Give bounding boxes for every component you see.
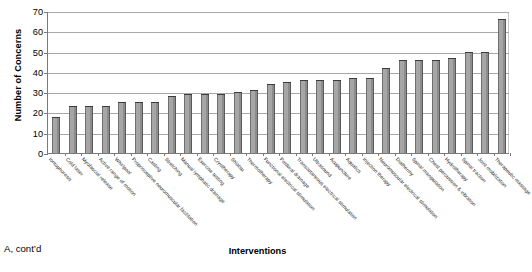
y-tick-mark [44, 154, 48, 155]
x-tick-label: Transcutaneous electrical stimulation [295, 156, 358, 221]
y-tick-label: 10 [33, 129, 43, 139]
bar [201, 94, 209, 153]
bar [283, 82, 291, 153]
y-tick-label: 40 [33, 68, 43, 78]
y-tick-label: 20 [33, 108, 43, 118]
bar [465, 52, 473, 153]
bar [481, 52, 489, 153]
bar [250, 90, 258, 153]
bar [432, 60, 440, 153]
bar [333, 80, 341, 153]
bar [234, 92, 242, 153]
bar [102, 106, 110, 153]
bar [69, 106, 77, 153]
bar [168, 96, 176, 153]
bar [85, 106, 93, 153]
bar [217, 94, 225, 153]
bar [415, 60, 423, 153]
y-tick-label: 70 [33, 7, 43, 17]
bar [448, 58, 456, 153]
x-tick-label: Shiatsu [229, 156, 245, 172]
bar [151, 102, 159, 153]
y-tick-label: 60 [33, 27, 43, 37]
bar [52, 117, 60, 154]
bar [382, 68, 390, 153]
bar [300, 80, 308, 153]
y-axis-title: Number of Concerns [13, 5, 23, 145]
bar [267, 84, 275, 153]
x-tick-label: Joint mobilization [477, 156, 509, 189]
figure-caption: A, cont’d [4, 243, 41, 254]
y-tick-label: 0 [38, 149, 43, 159]
y-tick-label: 50 [33, 48, 43, 58]
bar [399, 60, 407, 153]
bar [349, 78, 357, 153]
bar [366, 78, 374, 153]
bar [316, 80, 324, 153]
bar [184, 94, 192, 153]
bar-series [48, 12, 509, 153]
bar [498, 19, 506, 153]
x-axis-labels: IontophoresisCold laserMyofascial releas… [47, 156, 517, 251]
bar [135, 102, 143, 153]
plot-area: 010203040506070 [47, 12, 509, 154]
x-axis-title: Interventions [0, 246, 515, 256]
y-tick-label: 30 [33, 88, 43, 98]
bar [118, 102, 126, 153]
